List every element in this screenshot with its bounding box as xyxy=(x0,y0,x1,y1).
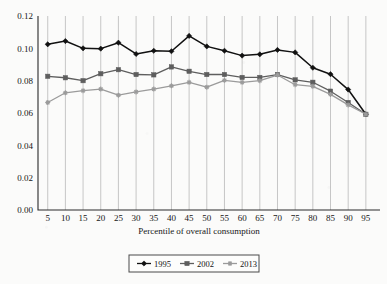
y-tick-label-3: 0.06 xyxy=(17,108,33,118)
datapoint-2002-60 xyxy=(240,75,244,79)
datapoint-2002-5 xyxy=(46,74,50,78)
legend-label-2013: 2013 xyxy=(240,259,257,269)
legend-label-2002: 2002 xyxy=(197,259,214,269)
legend-marker-2002 xyxy=(185,261,189,265)
x-tick-label-15: 15 xyxy=(79,213,89,223)
legend-label-1995: 1995 xyxy=(154,259,171,269)
legend-marker-2013 xyxy=(228,261,233,266)
y-tick-label-4: 0.08 xyxy=(17,76,33,86)
datapoint-2013-65 xyxy=(257,78,262,83)
x-tick-label-90: 90 xyxy=(344,213,354,223)
x-tick-label-55: 55 xyxy=(220,213,230,223)
x-tick-label-20: 20 xyxy=(96,213,106,223)
datapoint-1995-5 xyxy=(45,42,50,47)
x-axis-title: Percentile of overall consumption xyxy=(138,226,260,236)
datapoint-1995-15 xyxy=(80,46,85,51)
y-tick-label-6: 0.12 xyxy=(17,11,33,21)
datapoint-2002-15 xyxy=(81,78,85,82)
datapoint-2002-25 xyxy=(116,67,120,71)
datapoint-2002-20 xyxy=(99,72,103,76)
x-tick-label-40: 40 xyxy=(167,213,177,223)
x-tick-label-30: 30 xyxy=(132,213,142,223)
datapoint-2013-85 xyxy=(328,92,333,97)
datapoint-2002-75 xyxy=(293,78,297,82)
datapoint-2013-45 xyxy=(187,80,192,85)
consumption-percentile-line-chart: 0.000.020.040.060.080.100.12 51015202530… xyxy=(0,0,387,284)
datapoint-2013-20 xyxy=(98,87,103,92)
x-tick-label-75: 75 xyxy=(291,213,301,223)
datapoint-2013-95 xyxy=(363,112,368,117)
chart-container: 0.000.020.040.060.080.100.12 51015202530… xyxy=(0,0,387,284)
datapoint-2013-5 xyxy=(45,100,50,105)
chart-axes xyxy=(38,16,380,210)
x-tick-label-65: 65 xyxy=(255,213,265,223)
datapoint-1995-60 xyxy=(240,53,245,58)
y-tick-label-5: 0.10 xyxy=(17,44,33,54)
datapoint-2013-35 xyxy=(151,87,156,92)
datapoint-2013-80 xyxy=(310,84,315,89)
datapoint-2002-50 xyxy=(205,72,209,76)
datapoint-2002-10 xyxy=(63,76,67,80)
datapoint-2002-35 xyxy=(152,73,156,77)
x-axis-tick-labels: 5101520253035404550556065707580859095 xyxy=(45,213,370,223)
datapoint-2002-80 xyxy=(311,80,315,84)
x-tick-label-60: 60 xyxy=(238,213,248,223)
datapoint-2013-30 xyxy=(134,89,139,94)
x-tick-label-25: 25 xyxy=(114,213,124,223)
datapoint-2013-75 xyxy=(293,82,298,87)
datapoint-2013-10 xyxy=(63,90,68,95)
y-tick-label-2: 0.04 xyxy=(17,141,33,151)
x-tick-label-95: 95 xyxy=(361,213,371,223)
datapoint-2013-40 xyxy=(169,83,174,88)
y-tick-label-0: 0.00 xyxy=(17,205,33,215)
datapoint-1995-65 xyxy=(257,52,262,57)
datapoint-2002-55 xyxy=(222,72,226,76)
datapoint-1995-70 xyxy=(275,47,280,52)
x-tick-label-45: 45 xyxy=(185,213,195,223)
datapoint-1995-10 xyxy=(63,38,68,43)
datapoint-2013-50 xyxy=(204,85,209,90)
datapoint-2013-15 xyxy=(81,88,86,93)
datapoint-1995-20 xyxy=(98,46,103,51)
datapoint-2013-90 xyxy=(346,102,351,107)
datapoint-2013-70 xyxy=(275,73,280,78)
x-tick-label-35: 35 xyxy=(149,213,159,223)
y-axis-tick-labels: 0.000.020.040.060.080.100.12 xyxy=(17,11,33,215)
x-tick-label-85: 85 xyxy=(326,213,336,223)
x-tick-label-70: 70 xyxy=(273,213,283,223)
datapoint-1995-55 xyxy=(222,48,227,53)
x-tick-label-80: 80 xyxy=(308,213,318,223)
x-tick-label-10: 10 xyxy=(61,213,71,223)
datapoint-2013-25 xyxy=(116,93,121,98)
datapoint-2002-30 xyxy=(134,72,138,76)
axis-frame xyxy=(38,16,380,210)
x-tick-label-5: 5 xyxy=(45,213,50,223)
datapoint-2002-45 xyxy=(187,69,191,73)
y-tick-label-1: 0.02 xyxy=(17,173,33,183)
datapoint-1995-35 xyxy=(151,48,156,53)
datapoint-2013-55 xyxy=(222,78,227,83)
datapoint-2002-40 xyxy=(169,65,173,69)
x-tick-label-50: 50 xyxy=(202,213,212,223)
datapoint-2013-60 xyxy=(240,80,245,85)
chart-legend: 199520022013 xyxy=(129,255,259,272)
